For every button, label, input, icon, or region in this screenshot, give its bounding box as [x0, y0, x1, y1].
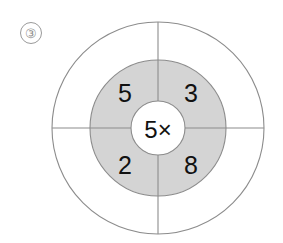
center-multiplier-label: 5×	[144, 116, 171, 143]
multiplication-target-diagram: 5 3 2 8 5×	[0, 0, 283, 243]
quadrant-value-top-right: 3	[184, 79, 198, 107]
quadrant-value-bottom-right: 8	[184, 151, 198, 179]
quadrant-value-bottom-left: 2	[118, 151, 132, 179]
quadrant-value-top-left: 5	[118, 79, 132, 107]
